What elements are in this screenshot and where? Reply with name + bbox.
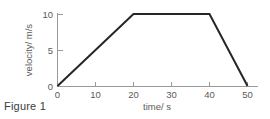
x-tick-label-10: 10 <box>90 89 101 100</box>
y-axis-tick-labels: 10 5 0 <box>42 9 53 92</box>
velocity-data-line <box>58 14 248 86</box>
x-tick-label-50: 50 <box>242 89 253 100</box>
x-tick-label-20: 20 <box>128 89 139 100</box>
y-axis-ticks <box>58 15 63 87</box>
x-tick-label-40: 40 <box>204 89 215 100</box>
x-tick-label-0: 0 <box>55 89 60 100</box>
x-tick-label-30: 30 <box>166 89 177 100</box>
y-tick-label-5: 5 <box>48 45 53 56</box>
y-tick-label-10: 10 <box>42 9 53 20</box>
x-axis-ticks <box>58 82 248 87</box>
y-tick-label-0: 0 <box>48 81 53 92</box>
x-axis-title: time/ s <box>143 101 171 112</box>
y-axis-title: velocity/ m/s <box>23 24 34 77</box>
x-axis-tick-labels: 0 10 20 30 40 50 <box>55 89 253 100</box>
figure-caption: Figure 1 <box>4 100 46 112</box>
figure-container: 10 5 0 0 10 20 30 40 50 velocity/ m/s ti… <box>0 0 270 119</box>
